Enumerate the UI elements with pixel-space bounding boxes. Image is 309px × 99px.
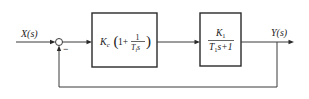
controller-close-paren: ) bbox=[146, 33, 151, 50]
summing-junction: − bbox=[56, 39, 69, 55]
plant-block: K1 T1s+1 bbox=[200, 13, 241, 66]
summing-junction-circle-icon bbox=[56, 39, 63, 46]
error-arrow-icon bbox=[87, 40, 93, 44]
feedback-sign-label: − bbox=[63, 44, 68, 54]
output-signal: Y(s) bbox=[241, 27, 294, 44]
feedback-arrow-icon bbox=[57, 46, 61, 52]
output-arrow-icon bbox=[289, 40, 295, 44]
plant-denominator: T1s+1 bbox=[209, 42, 232, 53]
input-arrow-icon bbox=[50, 40, 56, 44]
control-arrow-icon bbox=[195, 40, 201, 44]
block-diagram: X(s) − Kc ( 1+ 1 Tis ) K1 T1s+1 bbox=[0, 0, 309, 99]
feedback-path bbox=[57, 42, 277, 87]
input-label: X(s) bbox=[20, 28, 38, 40]
plant-box bbox=[200, 13, 241, 66]
input-signal: X(s) bbox=[16, 28, 56, 44]
output-label: Y(s) bbox=[271, 27, 288, 39]
controller-frac-numerator: 1 bbox=[136, 33, 140, 42]
controller-one-plus: 1+ bbox=[118, 37, 128, 47]
controller-block: Kc ( 1+ 1 Tis ) bbox=[92, 13, 157, 67]
